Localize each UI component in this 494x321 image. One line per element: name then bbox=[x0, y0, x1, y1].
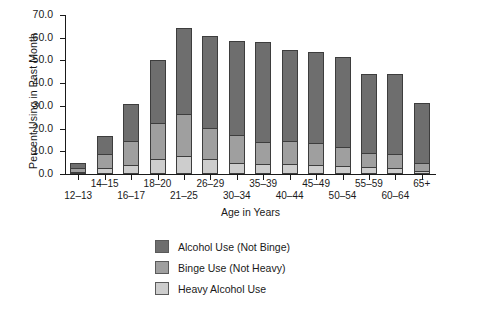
x-axis-tick bbox=[343, 175, 344, 180]
bar-60-64[interactable] bbox=[387, 75, 403, 174]
bar-segment bbox=[361, 153, 377, 168]
x-axis-title: Age in Years bbox=[65, 206, 436, 218]
x-axis-tick-label: 40–44 bbox=[267, 190, 313, 201]
bar-65+[interactable] bbox=[414, 104, 430, 174]
chart-figure: Percent Using in Past Month 0.010.020.03… bbox=[0, 0, 494, 321]
bar-segment bbox=[202, 36, 218, 129]
bar-segment bbox=[176, 156, 192, 174]
y-axis-tick: 0.0 bbox=[60, 174, 65, 175]
bar-segment bbox=[229, 135, 245, 165]
legend-item[interactable]: Binge Use (Not Heavy) bbox=[155, 257, 360, 278]
legend-label: Heavy Alcohol Use bbox=[178, 283, 266, 295]
chart-legend: Alcohol Use (Not Binge)Binge Use (Not He… bbox=[155, 236, 360, 299]
bar-segment bbox=[414, 163, 430, 172]
bar-segment bbox=[335, 57, 351, 148]
y-axis-tick: 70.0 bbox=[60, 15, 65, 16]
bar-35-39[interactable] bbox=[255, 42, 271, 174]
y-axis-tick: 10.0 bbox=[60, 151, 65, 152]
plot-area: 0.010.020.030.040.050.060.070.0 bbox=[65, 15, 435, 174]
bar-segment bbox=[176, 28, 192, 115]
y-axis-tick-label: 30.0 bbox=[33, 99, 53, 111]
bar-40-44[interactable] bbox=[282, 51, 298, 174]
bar-segment bbox=[282, 50, 298, 142]
bar-segment bbox=[123, 165, 139, 174]
bar-segment bbox=[255, 142, 271, 165]
legend-swatch bbox=[155, 282, 169, 295]
bar-segment bbox=[255, 164, 271, 174]
bar-segment bbox=[123, 141, 139, 166]
bar-segment bbox=[150, 159, 166, 174]
bar-segment bbox=[150, 60, 166, 123]
x-axis-tick bbox=[131, 175, 132, 180]
bar-segment bbox=[229, 163, 245, 174]
y-axis-tick-label: 60.0 bbox=[33, 31, 53, 43]
x-axis-tick bbox=[237, 175, 238, 180]
bar-segment bbox=[387, 154, 403, 169]
y-axis-tick: 30.0 bbox=[60, 106, 65, 107]
x-axis-tick-label: 21–25 bbox=[161, 190, 207, 201]
bar-30-34[interactable] bbox=[229, 42, 245, 174]
x-axis-tick-label: 18–20 bbox=[135, 178, 181, 189]
x-axis-tick-label: 50–54 bbox=[320, 190, 366, 201]
bar-segment bbox=[282, 141, 298, 165]
bar-50-54[interactable] bbox=[335, 58, 351, 174]
y-axis-tick-label: 0.0 bbox=[38, 167, 53, 179]
x-axis-tick bbox=[78, 175, 79, 180]
bar-45-49[interactable] bbox=[308, 53, 324, 174]
x-axis-tick-label: 60–64 bbox=[372, 190, 418, 201]
y-axis-tick: 40.0 bbox=[60, 83, 65, 84]
y-axis-tick-label: 70.0 bbox=[33, 8, 53, 20]
x-axis-tick-label: 16–17 bbox=[108, 190, 154, 201]
y-axis-line bbox=[65, 15, 66, 175]
bar-segment bbox=[97, 136, 113, 155]
bar-12-13[interactable] bbox=[70, 164, 86, 174]
legend-swatch bbox=[155, 261, 169, 274]
bar-segment bbox=[176, 114, 192, 157]
bar-segment bbox=[361, 167, 377, 174]
bar-55-59[interactable] bbox=[361, 75, 377, 174]
x-axis-tick bbox=[184, 175, 185, 180]
bar-segment bbox=[308, 143, 324, 166]
bar-segment bbox=[202, 128, 218, 161]
bar-16-17[interactable] bbox=[123, 105, 139, 174]
x-axis-tick-label: 55–59 bbox=[346, 178, 392, 189]
bar-21-25[interactable] bbox=[176, 29, 192, 174]
x-axis-tick-label: 45–49 bbox=[293, 178, 339, 189]
x-axis-tick-label: 65+ bbox=[399, 178, 445, 189]
x-axis-tick-label: 30–34 bbox=[214, 190, 260, 201]
footer-cutoff-text bbox=[0, 314, 180, 321]
legend-item[interactable]: Alcohol Use (Not Binge) bbox=[155, 236, 360, 257]
bar-segment bbox=[308, 52, 324, 144]
bar-segment bbox=[202, 159, 218, 174]
y-axis-tick: 60.0 bbox=[60, 38, 65, 39]
x-axis-tick-label: 35–39 bbox=[240, 178, 286, 189]
bar-18-20[interactable] bbox=[150, 61, 166, 174]
x-axis-tick bbox=[395, 175, 396, 180]
bar-segment bbox=[335, 147, 351, 166]
legend-item[interactable]: Heavy Alcohol Use bbox=[155, 278, 360, 299]
y-axis-tick-label: 40.0 bbox=[33, 76, 53, 88]
y-axis-tick: 20.0 bbox=[60, 129, 65, 130]
bar-segment bbox=[123, 104, 139, 142]
x-axis-tick-label: 14–15 bbox=[82, 178, 128, 189]
bar-segment bbox=[282, 164, 298, 174]
bar-26-29[interactable] bbox=[202, 37, 218, 174]
y-axis-tick: 50.0 bbox=[60, 60, 65, 61]
y-axis-tick-label: 50.0 bbox=[33, 53, 53, 65]
x-axis-tick bbox=[290, 175, 291, 180]
x-axis-line bbox=[65, 174, 436, 175]
bar-segment bbox=[361, 74, 377, 154]
legend-label: Alcohol Use (Not Binge) bbox=[178, 241, 290, 253]
bar-segment bbox=[308, 165, 324, 174]
bar-segment bbox=[414, 103, 430, 164]
legend-swatch bbox=[155, 240, 169, 253]
x-axis-tick-label: 12–13 bbox=[55, 190, 101, 201]
bar-segment bbox=[387, 74, 403, 155]
bar-14-15[interactable] bbox=[97, 137, 113, 174]
bar-segment bbox=[335, 166, 351, 174]
bar-segment bbox=[255, 42, 271, 143]
bar-segment bbox=[70, 163, 86, 169]
legend-label: Binge Use (Not Heavy) bbox=[178, 262, 285, 274]
bar-segment bbox=[97, 154, 113, 170]
bar-segment bbox=[229, 41, 245, 136]
